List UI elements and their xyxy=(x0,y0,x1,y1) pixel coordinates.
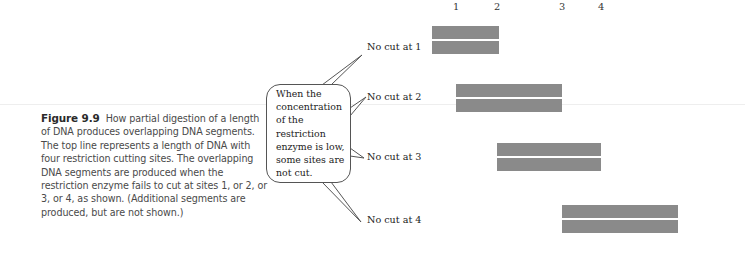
segment-label-2: No cut at 2 xyxy=(367,91,421,102)
dna-strand-top xyxy=(432,26,499,39)
dna-strand-bottom xyxy=(562,220,678,233)
site-label-2: 2 xyxy=(494,1,500,12)
dna-strand-top xyxy=(562,205,678,218)
dna-segment-no-cut-4 xyxy=(562,205,678,233)
segment-label-3: No cut at 3 xyxy=(367,151,421,162)
dna-strand-bottom xyxy=(432,41,499,54)
site-label-3: 3 xyxy=(559,1,565,12)
dna-strand-bottom xyxy=(456,99,562,112)
segment-label-1: No cut at 1 xyxy=(367,41,421,52)
dna-strand-bottom xyxy=(497,158,601,171)
dna-segment-no-cut-2 xyxy=(456,84,562,112)
segment-label-4: No cut at 4 xyxy=(367,214,421,225)
dna-strand-top xyxy=(456,84,562,97)
site-label-1: 1 xyxy=(453,1,459,12)
site-label-4: 4 xyxy=(598,1,604,12)
dna-segment-no-cut-3 xyxy=(497,143,601,171)
dna-segment-no-cut-1 xyxy=(432,26,499,54)
callout-text: When the concentration of the restrictio… xyxy=(276,87,354,179)
dna-strand-top xyxy=(497,143,601,156)
